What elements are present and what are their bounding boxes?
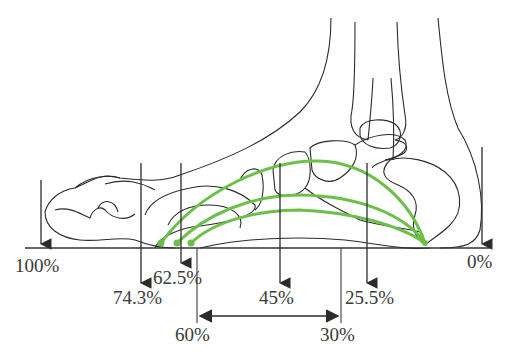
arch-point-outer: [158, 240, 165, 247]
label-62-5: 62.5%: [153, 268, 202, 287]
arch-curves: [161, 161, 425, 243]
arch-point-middle: [174, 240, 181, 247]
label-25-5: 25.5%: [345, 288, 394, 307]
arch-point-heel: [422, 240, 428, 246]
arch-middle: [177, 195, 425, 243]
label-100: 100%: [15, 256, 59, 275]
foot-arch-diagram: [0, 0, 507, 360]
label-span-end: 30%: [320, 325, 355, 344]
arch-point-inner: [188, 240, 195, 247]
label-0: 0%: [467, 252, 492, 271]
arch-outer: [161, 161, 425, 243]
label-74-3: 74.3%: [113, 288, 162, 307]
span-indicator: [197, 248, 341, 323]
label-span-start: 60%: [175, 325, 210, 344]
label-45: 45%: [259, 288, 294, 307]
load-arrows: [41, 147, 482, 283]
